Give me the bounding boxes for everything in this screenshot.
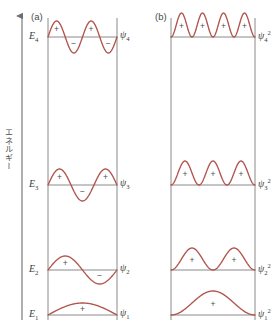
panel-b-sign-4-3: +	[221, 22, 226, 31]
density-label-psi2sq: ψ22	[258, 263, 271, 277]
panel-b-sign-4-1: +	[179, 22, 184, 31]
wave-label-psi3: ψ3	[120, 178, 130, 191]
panel-a-sign-3-1: +	[57, 173, 62, 182]
panel-b-sign-1-1: +	[210, 300, 215, 309]
panel-a-sign-2-2: −	[97, 271, 102, 280]
figure-svg	[0, 0, 276, 327]
energy-label-E4: E4	[29, 31, 39, 44]
panel-b-tag: (b)	[155, 12, 167, 22]
panel-a-sign-2-1: +	[63, 259, 68, 268]
panel-b-sign-3-2: +	[210, 170, 215, 179]
panel-b-sign-2-1: +	[189, 256, 194, 265]
energy-label-E3: E3	[29, 179, 39, 192]
panel-b-sign-4-2: +	[200, 22, 205, 31]
energy-axis-label: エネルギー	[2, 128, 13, 171]
wave-label-psi1: ψ1	[120, 308, 130, 321]
panel-b-sign-2-2: +	[231, 256, 236, 265]
density-label-psi3sq: ψ32	[258, 178, 271, 192]
panel-a-sign-4-3: +	[89, 25, 94, 34]
density-label-psi1sq: ψ12	[258, 308, 271, 322]
panel-b-curve-2	[171, 248, 255, 270]
energy-label-E1: E1	[29, 309, 39, 322]
panel-a-sign-4-4: −	[106, 39, 111, 48]
energy-label-E2: E2	[29, 264, 39, 277]
panel-a-sign-3-3: +	[103, 173, 108, 182]
panel-a-tag: (a)	[31, 12, 43, 22]
panel-b-sign-3-3: +	[238, 170, 243, 179]
density-label-psi4sq: ψ42	[258, 30, 271, 44]
wave-label-psi4: ψ4	[120, 30, 130, 43]
wave-label-psi2: ψ2	[120, 263, 130, 276]
panel-a-sign-4-2: −	[71, 39, 76, 48]
energy-baselines	[48, 37, 255, 315]
panel-b-sign-3-1: +	[182, 170, 187, 179]
panel-a-sign-1-1: +	[80, 305, 85, 314]
figure-canvas: エネルギー (a) (b) E4 E3 E2 E1 ψ4 ψ3 ψ2 ψ1 ψ4…	[0, 0, 276, 327]
panel-b-sign-4-4: +	[242, 22, 247, 31]
panel-a-sign-4-1: +	[54, 25, 59, 34]
panel-a-sign-3-2: −	[80, 187, 85, 196]
